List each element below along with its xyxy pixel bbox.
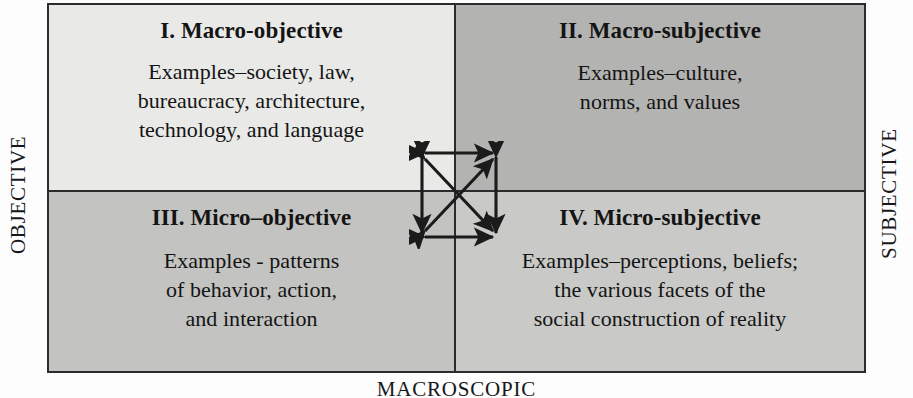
quadrant-examples: Examples–culture, norms, and values (472, 58, 848, 116)
quadrant-title: III. Micro–objective (65, 205, 438, 231)
quadrant-example-line: the various facets of the (472, 276, 848, 305)
axis-label-subjective: SUBJECTIVE (877, 58, 902, 330)
quadrant-micro-subjective: IV. Micro-subjective Examples–perception… (456, 192, 864, 371)
axis-label-objective: OBJECTIVE (6, 66, 31, 324)
diagram-canvas: OBJECTIVE SUBJECTIVE I. Macro-objective … (0, 0, 913, 398)
quadrant-examples: Examples–perceptions, beliefs; the vario… (472, 247, 848, 333)
quadrant-example-line: Examples–perceptions, beliefs; (472, 247, 848, 276)
quadrant-example-line: bureaucracy, architecture, (65, 87, 438, 116)
quadrant-title: IV. Micro-subjective (472, 205, 848, 231)
quadrant-examples: Examples–society, law, bureaucracy, arch… (65, 58, 438, 144)
quadrant-example-line: technology, and language (65, 116, 438, 145)
quadrant-example-line: social construction of reality (472, 305, 848, 334)
quadrant-example-line: Examples–culture, (472, 58, 848, 87)
quadrant-example-line: Examples–society, law, (65, 58, 438, 87)
quadrant-title: I. Macro-objective (65, 18, 438, 44)
quadrant-example-line: norms, and values (472, 87, 848, 116)
axis-label-macroscopic: MACROSCOPIC (0, 377, 913, 398)
quadrant-macro-subjective: II. Macro-subjective Examples–culture, n… (456, 5, 864, 192)
quadrant-matrix: I. Macro-objective Examples–society, law… (47, 3, 866, 373)
quadrant-example-line: Examples - patterns (65, 247, 438, 276)
quadrant-example-line: and interaction (65, 305, 438, 334)
quadrant-micro-objective: III. Micro–objective Examples - patterns… (49, 192, 456, 371)
quadrant-title: II. Macro-subjective (472, 18, 848, 44)
quadrant-examples: Examples - patterns of behavior, action,… (65, 247, 438, 333)
quadrant-macro-objective: I. Macro-objective Examples–society, law… (49, 5, 456, 192)
quadrant-example-line: of behavior, action, (65, 276, 438, 305)
